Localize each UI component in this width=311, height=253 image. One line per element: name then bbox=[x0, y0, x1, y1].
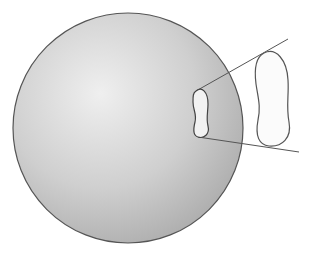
small-patch-on-sphere bbox=[193, 89, 208, 137]
solid-angle-diagram bbox=[0, 0, 311, 253]
projected-large-patch bbox=[255, 52, 289, 147]
